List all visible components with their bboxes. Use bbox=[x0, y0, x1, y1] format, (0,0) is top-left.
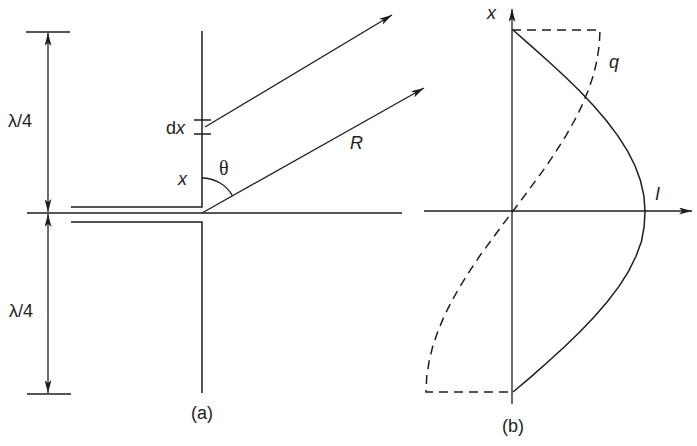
dipole-antenna-figure: λ/4 λ/4 dx x θ R (a) x q I (b) bbox=[0, 0, 697, 446]
panel-a: λ/4 λ/4 dx x θ R (a) bbox=[8, 15, 424, 423]
dx-label: dx bbox=[166, 118, 186, 138]
dimension-upper-label: λ/4 bbox=[8, 111, 32, 131]
ray-from-center-arrow bbox=[202, 88, 424, 213]
theta-label: θ bbox=[219, 157, 229, 179]
current-i-label: I bbox=[655, 184, 660, 204]
vertical-axis-x-label: x bbox=[486, 3, 497, 23]
panel-a-caption: (a) bbox=[191, 403, 213, 423]
ray-from-element-arrow bbox=[205, 15, 392, 127]
panel-b: x q I (b) bbox=[424, 3, 692, 436]
position-x-label: x bbox=[177, 169, 188, 189]
antenna-lower-arm bbox=[71, 222, 202, 393]
dx-label-x: x bbox=[175, 118, 186, 138]
panel-b-caption: (b) bbox=[502, 416, 524, 436]
theta-angle-arc bbox=[202, 178, 233, 196]
charge-q-label: q bbox=[609, 52, 619, 72]
distance-r-label: R bbox=[350, 133, 363, 153]
dimension-lower-label: λ/4 bbox=[9, 301, 33, 321]
dx-label-d: d bbox=[166, 118, 176, 138]
